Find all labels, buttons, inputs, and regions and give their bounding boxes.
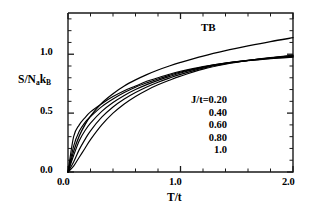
legend-item-1: 0.40	[155, 107, 227, 120]
x-tick-label-2: 2.0	[282, 176, 295, 187]
figure-container: 0.0 0.5 1.0 0.0 1.0 2.0 S/NakB T/t TB J/…	[0, 0, 317, 215]
y-tick-label-0: 0.0	[40, 164, 53, 175]
legend-item-3: 0.80	[155, 132, 227, 145]
y-axis-title-main: S/N	[18, 73, 36, 85]
x-axis-title: T/t	[167, 191, 182, 203]
legend-item-0: J/t=0.20	[155, 94, 227, 107]
y-axis-title: S/NakB	[18, 74, 51, 86]
tb-curve-label: TB	[201, 21, 216, 33]
y-axis-title-sub-b: B	[46, 78, 51, 87]
legend-item-4: 1.0	[155, 144, 227, 157]
y-tick-label-2: 1.0	[40, 46, 53, 57]
x-tick-label-1: 1.0	[169, 176, 182, 187]
legend: J/t=0.20 0.40 0.60 0.80 1.0	[155, 94, 227, 157]
legend-item-2: 0.60	[155, 119, 227, 132]
y-axis-title-sub-a: a	[36, 78, 40, 87]
x-tick-label-0: 0.0	[57, 176, 70, 187]
y-tick-label-1: 0.5	[40, 105, 53, 116]
